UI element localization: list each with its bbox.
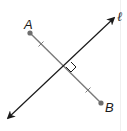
line-l <box>8 18 114 118</box>
label-point-a: A <box>23 17 33 32</box>
perpendicular-bisector-diagram: A B ℓ <box>0 0 127 131</box>
segment-ab <box>30 33 101 103</box>
point-b-dot <box>98 100 103 105</box>
label-line-l: ℓ <box>117 9 123 24</box>
label-point-b: B <box>105 100 114 115</box>
